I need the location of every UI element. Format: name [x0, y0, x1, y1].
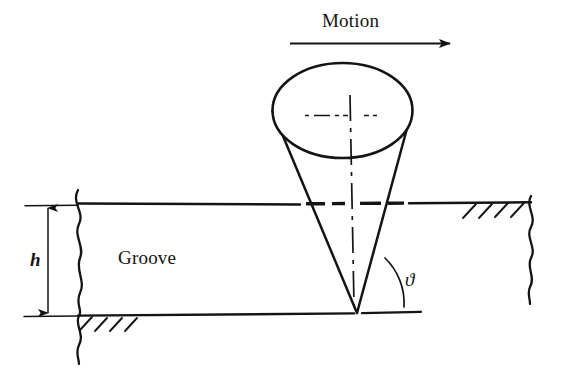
cone-top-ellipse	[273, 63, 413, 158]
workpiece-top-surface-left-extension	[25, 205, 78, 206]
workpiece-top-surface-left	[78, 204, 300, 205]
depth-label: h	[30, 250, 41, 269]
groove-label: Groove	[118, 248, 176, 267]
angle-label: ϑ	[405, 270, 414, 289]
motion-label: Motion	[322, 11, 379, 30]
angle-arc	[385, 258, 404, 307]
diagram-canvas	[0, 0, 565, 388]
groove-bottom-left-extension	[24, 316, 78, 317]
groove-bottom-surface	[78, 313, 354, 315]
hatching-bottom	[80, 317, 137, 331]
workpiece-top-surface-right	[409, 202, 531, 203]
surface-level-dashed-line	[306, 203, 404, 204]
groove-cutting-diagram: Motion Groove h ϑ	[0, 0, 565, 388]
hatching-top-right	[463, 203, 524, 218]
break-line-right	[529, 196, 533, 304]
angle-baseline	[362, 312, 421, 313]
break-line-left	[76, 190, 82, 364]
